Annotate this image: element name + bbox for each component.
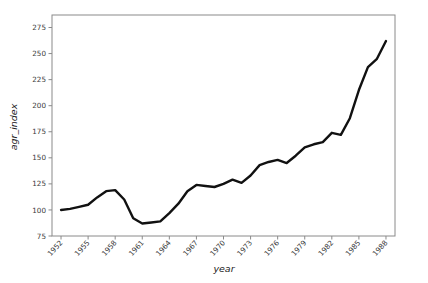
y-tick-label: 150 [32,153,46,162]
figure-background [0,0,428,283]
y-axis-title: agr_index [8,103,19,150]
y-tick-label: 175 [32,127,46,136]
y-tick-label: 100 [32,206,46,215]
y-tick-label: 75 [37,232,46,241]
line-chart: 75100125150175200225250275 1952195519581… [0,0,428,283]
x-axis-title: year [212,263,235,274]
y-tick-label: 125 [32,179,46,188]
y-tick-label: 200 [32,101,46,110]
y-tick-label: 275 [32,23,46,32]
y-tick-label: 225 [32,75,46,84]
y-tick-label: 250 [32,49,46,58]
chart-figure: 75100125150175200225250275 1952195519581… [0,0,428,283]
